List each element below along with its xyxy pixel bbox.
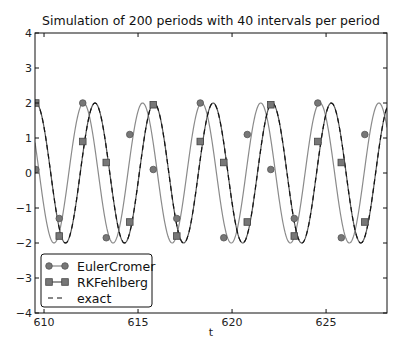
square-marker <box>291 233 298 240</box>
circle-marker <box>315 100 322 107</box>
square-marker <box>267 101 274 108</box>
circle-marker <box>32 166 39 173</box>
x-tick-label: 615 <box>128 316 149 329</box>
y-tick-label: −1 <box>16 202 32 215</box>
circle-marker <box>56 215 63 222</box>
plot-area <box>32 100 387 243</box>
square-marker <box>315 138 322 145</box>
square-marker-icon <box>62 279 69 286</box>
circle-marker <box>79 100 86 107</box>
circle-marker-icon <box>46 263 53 270</box>
x-tick-label: 610 <box>34 316 55 329</box>
circle-marker <box>244 131 251 138</box>
y-tick-label: −2 <box>16 237 32 250</box>
line-chart: Simulation of 200 periods with 40 interv… <box>0 0 406 351</box>
square-marker <box>244 219 251 226</box>
legend-label: exact <box>77 291 111 306</box>
x-tick-label: 620 <box>222 316 243 329</box>
square-marker <box>79 138 86 145</box>
square-marker <box>103 159 110 166</box>
square-marker <box>126 219 133 226</box>
circle-marker <box>150 166 157 173</box>
circle-marker <box>126 131 133 138</box>
square-marker-icon <box>46 279 53 286</box>
square-marker <box>173 233 180 240</box>
square-marker <box>220 159 227 166</box>
legend-label: EulerCromer <box>77 259 156 274</box>
circle-marker <box>103 234 110 241</box>
x-tick-label: 625 <box>316 316 337 329</box>
legend-label: RKFehlberg <box>77 275 148 290</box>
y-tick-label: 0 <box>25 167 32 180</box>
x-axis-label: t <box>209 326 214 339</box>
square-marker <box>362 219 369 226</box>
legend: EulerCromer RKFehlberg exact <box>41 254 156 307</box>
circle-marker <box>220 234 227 241</box>
circle-marker <box>267 166 274 173</box>
circle-marker <box>173 215 180 222</box>
chart-title: Simulation of 200 periods with 40 interv… <box>42 13 380 28</box>
circle-marker-icon <box>62 263 69 270</box>
circle-marker <box>362 131 369 138</box>
circle-marker <box>338 234 345 241</box>
square-marker <box>338 159 345 166</box>
square-marker <box>56 233 63 240</box>
circle-marker <box>291 215 298 222</box>
y-tick-label: 4 <box>25 27 32 40</box>
square-marker <box>197 138 204 145</box>
y-tick-label: 2 <box>25 97 32 110</box>
circle-marker <box>197 100 204 107</box>
square-marker <box>150 101 157 108</box>
y-tick-label: −3 <box>16 272 32 285</box>
y-tick-label: 1 <box>25 132 32 145</box>
y-tick-label: −4 <box>16 307 32 320</box>
y-tick-label: 3 <box>25 62 32 75</box>
